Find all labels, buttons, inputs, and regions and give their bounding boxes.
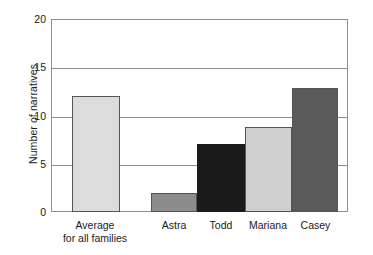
bar-astra[interactable] [151,193,197,212]
bar-mariana[interactable] [245,127,292,212]
bar-casey[interactable] [292,88,338,212]
y-tick-label-5: 5 [2,159,46,170]
bar-todd[interactable] [197,144,245,212]
x-category-label-todd: Todd [197,219,245,232]
bars-layer [51,19,348,212]
x-category-label-average: Average for all families [36,219,154,244]
x-category-label-mariana: Mariana [243,219,293,232]
x-category-label-astra: Astra [151,219,197,232]
bar-chart: Number of narratives 20 15 10 5 0 Averag… [0,0,373,255]
y-tick-label-20: 20 [2,14,46,25]
y-tick-label-15: 15 [2,62,46,73]
y-tick-label-10: 10 [2,111,46,122]
y-tick-label-0: 0 [2,207,46,218]
x-category-label-casey: Casey [292,219,339,232]
bar-average[interactable] [72,96,120,212]
